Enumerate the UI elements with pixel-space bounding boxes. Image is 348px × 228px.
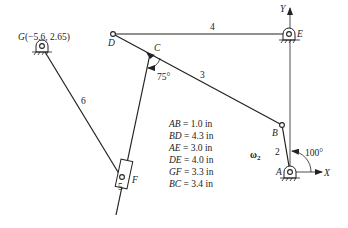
spec-de: DE = 4.0 in [168,155,214,165]
link-6 [42,47,121,177]
label-link-4: 4 [210,22,215,32]
joint-c-marker [146,52,155,59]
label-axis-y: Y [280,4,287,14]
spec-ab: AB = 1.0 in [168,119,213,129]
spec-bc: BC = 3.4 in [169,179,213,189]
spec-ae: AE = 3.0 in [168,143,213,153]
label-g: G(−5.6, 2.65) [18,32,70,43]
spec-gf: GF = 3.3 in [169,167,214,177]
label-angle-c: 75° [157,72,171,82]
label-angle-a: 100° [305,148,323,158]
label-link-2: 2 [275,147,280,157]
pin-b [280,123,285,128]
label-link-6: 6 [81,96,86,106]
label-f: F [131,175,138,185]
ground-pivot-g [32,40,52,55]
label-link-3: 3 [200,70,205,80]
spec-bd: BD = 4.3 in [169,131,214,141]
label-c: C [154,43,161,53]
pin-f [120,175,125,180]
label-b: B [272,128,278,138]
specs-list: AB = 1.0 in BD = 4.3 in AE = 3.0 in DE =… [168,119,214,189]
label-omega-2: ω2 [250,150,261,162]
ground-pivot-a [280,166,300,181]
label-d: D [107,38,115,48]
angle-arc-c [148,58,160,68]
label-a: A [275,167,282,177]
label-axis-x: X [323,168,331,178]
label-e: E [296,29,303,39]
link-2 [282,125,290,172]
label-link-5: 5 [118,182,123,192]
mechanism-diagram: G(−5.6, 2.65) D C E B A F 2 3 4 5 6 75° … [0,0,348,228]
pin-d [111,32,116,37]
